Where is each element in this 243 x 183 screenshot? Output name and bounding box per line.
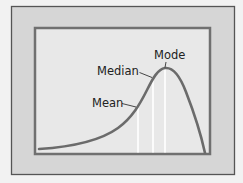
- mode-label: Mode: [154, 48, 185, 62]
- median-label: Median: [97, 64, 139, 78]
- mean-label: Mean: [92, 96, 123, 110]
- plot-panel: [35, 28, 210, 154]
- skewed-distribution-diagram: Mode Median Mean: [0, 0, 243, 183]
